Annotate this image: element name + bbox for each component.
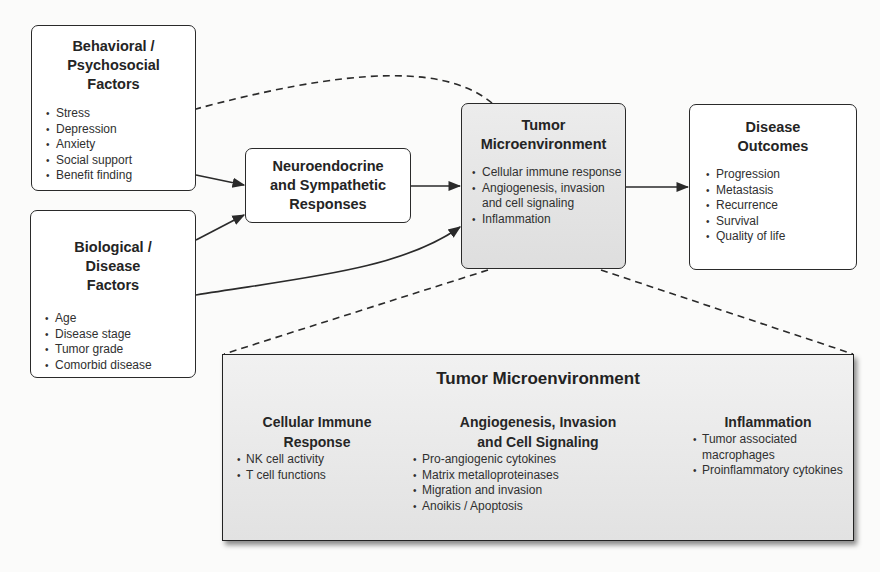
panel-column-angiogenesis-invasion-signaling: Angiogenesis, Invasion and Cell Signalin…	[413, 412, 663, 514]
panel-column-inflammation: Inflammation Tumor associated macrophage…	[693, 412, 843, 479]
arrow-biological-to-neuroendocrine	[196, 215, 244, 240]
outcome-list: Progression Metastasis Recurrence Surviv…	[706, 167, 856, 245]
component-list: Cellular immune response Angiogenesis, i…	[472, 165, 625, 227]
node-behavioral-psychosocial-factors: Behavioral / Psychosocial Factors Stress…	[31, 25, 196, 191]
title-line: Neuroendocrine	[272, 158, 383, 174]
column-list: NK cell activity T cell functions	[237, 452, 397, 483]
list-item: Depression	[46, 122, 195, 138]
node-disease-outcomes: Disease Outcomes Progression Metastasis …	[689, 104, 857, 270]
title-line: Microenvironment	[481, 136, 607, 152]
title-line: and Sympathetic	[270, 177, 386, 193]
list-item: Metastasis	[706, 183, 856, 199]
list-item: Social support	[46, 153, 195, 169]
column-list: Pro-angiogenic cytokines Matrix metallop…	[413, 452, 663, 514]
list-item: Survival	[706, 214, 856, 230]
column-title: Angiogenesis, Invasion and Cell Signalin…	[413, 412, 663, 452]
list-item: Benefit finding	[46, 168, 195, 184]
title-line: Factors	[87, 277, 139, 293]
node-title: Behavioral / Psychosocial Factors	[32, 37, 195, 94]
title-line: Disease	[86, 258, 141, 274]
column-list: Tumor associated macrophages Proinflamma…	[693, 432, 843, 479]
list-item: Proinflammatory cytokines	[693, 463, 843, 479]
title-line: Response	[284, 434, 351, 450]
column-title: Inflammation	[693, 412, 843, 432]
node-title: Biological / Disease Factors	[31, 238, 195, 295]
column-title: Cellular Immune Response	[237, 412, 397, 452]
list-item: Age	[45, 311, 195, 327]
node-neuroendocrine-sympathetic-responses: Neuroendocrine and Sympathetic Responses	[245, 148, 411, 223]
title-line: Angiogenesis, Invasion	[460, 414, 616, 430]
list-item: Cellular immune response	[472, 165, 625, 181]
list-item: Comorbid disease	[45, 358, 195, 374]
list-item: Migration and invasion	[413, 483, 663, 499]
title-line: Biological /	[74, 239, 151, 255]
list-item: Matrix metalloproteinases	[413, 468, 663, 484]
list-item: Pro-angiogenic cytokines	[413, 452, 663, 468]
factor-list: Age Disease stage Tumor grade Comorbid d…	[45, 311, 195, 373]
tumor-microenvironment-detail-panel: Tumor Microenvironment Cellular Immune R…	[222, 354, 854, 541]
panel-title: Tumor Microenvironment	[223, 369, 853, 389]
list-item: Anxiety	[46, 137, 195, 153]
list-item: Angiogenesis, invasion and cell signalin…	[472, 181, 625, 212]
title-line: Tumor	[521, 117, 565, 133]
node-title: Disease Outcomes	[690, 118, 856, 156]
list-item: Progression	[706, 167, 856, 183]
list-item: Stress	[46, 106, 195, 122]
list-item: Quality of life	[706, 229, 856, 245]
list-item: Anoikis / Apoptosis	[413, 499, 663, 515]
list-item: T cell functions	[237, 468, 397, 484]
title-line: Outcomes	[738, 138, 809, 154]
panel-column-cellular-immune-response: Cellular Immune Response NK cell activit…	[237, 412, 397, 483]
arrow-behavioral-to-neuroendocrine	[196, 175, 244, 185]
list-item: Disease stage	[45, 327, 195, 343]
dashed-expand-left	[224, 270, 488, 354]
factor-list: Stress Depression Anxiety Social support…	[46, 106, 195, 184]
title-line: Factors	[87, 76, 139, 92]
list-item: Inflammation	[472, 212, 625, 228]
title-line: Psychosocial	[67, 57, 160, 73]
title-line: and Cell Signaling	[477, 434, 598, 450]
node-tumor-microenvironment: Tumor Microenvironment Cellular immune r…	[461, 103, 626, 269]
title-line: Disease	[746, 119, 801, 135]
node-title: Tumor Microenvironment	[462, 116, 625, 154]
dashed-expand-right	[601, 270, 853, 354]
title-line: Responses	[289, 196, 366, 212]
title-line: Behavioral /	[72, 38, 154, 54]
arrow-biological-to-tumor	[196, 227, 460, 295]
list-item: NK cell activity	[237, 452, 397, 468]
node-title: Neuroendocrine and Sympathetic Responses	[270, 157, 386, 214]
node-biological-disease-factors: Biological / Disease Factors Age Disease…	[30, 210, 196, 378]
title-line: Cellular Immune	[263, 414, 372, 430]
title-line: Inflammation	[724, 414, 811, 430]
list-item: Tumor associated macrophages	[693, 432, 843, 463]
list-item: Recurrence	[706, 198, 856, 214]
list-item: Tumor grade	[45, 342, 195, 358]
